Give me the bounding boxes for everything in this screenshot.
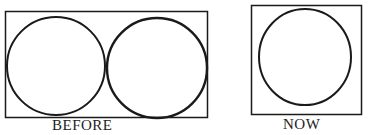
before-panel: [6, 12, 208, 119]
before-circle-right: [107, 18, 207, 118]
before-label: BEFORE: [52, 117, 113, 134]
now-panel: [252, 6, 362, 115]
now-frame: [252, 6, 362, 115]
now-circle: [259, 9, 351, 105]
diagram-canvas: [0, 0, 370, 135]
before-circle-left: [7, 17, 105, 115]
now-label: NOW: [283, 116, 320, 133]
